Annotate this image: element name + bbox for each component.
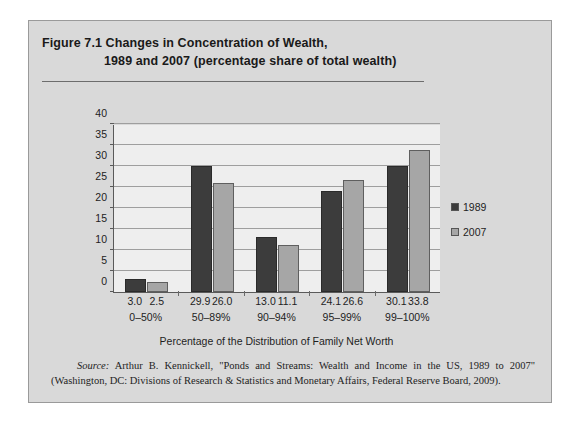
y-axis-tick-label: 35 (95, 128, 107, 140)
bar-value-label: 26.0 (212, 295, 232, 307)
y-axis-tick (110, 144, 114, 145)
bar-2007-0–50% (147, 282, 168, 293)
y-axis-tick-label: 0 (101, 275, 107, 287)
bar-value-label: 11.1 (278, 295, 298, 307)
x-axis-tick (178, 291, 179, 296)
bar-value-label: 33.8 (408, 295, 428, 307)
legend-swatch-icon (451, 228, 459, 236)
x-axis-category-label: 95–99% (323, 311, 362, 323)
bar-2007-99–100% (409, 150, 430, 292)
bar-1989-50–89% (191, 166, 212, 292)
source-note: Source: Arthur B. Kennickell, "Ponds and… (51, 358, 535, 388)
figure-title-line-1: Figure 7.1 Changes in Concentration of W… (42, 36, 328, 50)
legend-label: 1989 (463, 201, 486, 213)
y-axis-tick (110, 249, 114, 250)
bar-2007-90–94% (278, 245, 299, 292)
gridline (114, 123, 440, 124)
y-axis-tick (110, 291, 114, 292)
y-axis-tick-label: 15 (95, 212, 107, 224)
y-axis-tick-label: 20 (95, 191, 107, 203)
y-axis-tick (110, 270, 114, 271)
bar-1989-90–94% (256, 237, 277, 292)
bar-1989-0–50% (125, 279, 146, 292)
legend-item-2007[interactable]: 2007 (451, 226, 486, 238)
y-axis-tick (110, 165, 114, 166)
bar-value-label: 29.9 (190, 295, 210, 307)
x-axis-category-label: 99–100% (385, 311, 429, 323)
bar-value-label: 30.1 (386, 295, 406, 307)
figure-panel: Figure 7.1 Changes in Concentration of W… (28, 20, 552, 403)
chart-area: 0510152025303540 3.02.529.926.013.011.12… (29, 93, 553, 308)
x-axis-category-labels: 0–50%50–89%90–94%95–99%99–100% (113, 311, 440, 327)
title-divider (42, 81, 424, 82)
bar-1989-99–100% (387, 166, 408, 292)
source-text: Arthur B. Kennickell, "Ponds and Streams… (51, 360, 535, 386)
y-axis-tick (110, 228, 114, 229)
y-axis-tick (110, 123, 114, 124)
bar-1989-95–99% (321, 191, 342, 292)
plot-area: 0510152025303540 (113, 125, 440, 293)
figure-title: Figure 7.1 Changes in Concentration of W… (42, 35, 512, 71)
bar-value-label: 2.5 (149, 295, 164, 307)
legend-item-1989[interactable]: 1989 (451, 201, 486, 213)
y-axis-tick-label: 30 (95, 149, 107, 161)
x-axis-category-label: 0–50% (129, 311, 162, 323)
bar-value-labels: 3.02.529.926.013.011.124.126.630.133.8 (113, 295, 440, 310)
x-axis-tick (309, 291, 310, 296)
bar-value-label: 24.1 (321, 295, 341, 307)
y-axis-tick-label: 25 (95, 170, 107, 182)
figure-title-line-2: 1989 and 2007 (percentage share of total… (42, 53, 512, 71)
legend-label: 2007 (463, 226, 486, 238)
source-label: Source: (77, 360, 109, 371)
x-axis-category-label: 50–89% (192, 311, 231, 323)
bar-value-label: 3.0 (127, 295, 142, 307)
y-axis-tick (110, 207, 114, 208)
y-axis-tick-label: 10 (95, 233, 107, 245)
legend-swatch-icon (451, 203, 459, 211)
bar-value-label: 26.6 (343, 295, 363, 307)
x-axis-category-label: 90–94% (257, 311, 296, 323)
x-axis-title: Percentage of the Distribution of Family… (113, 335, 440, 347)
y-axis-tick-label: 5 (101, 254, 107, 266)
y-axis-tick (110, 186, 114, 187)
bar-2007-95–99% (343, 180, 364, 292)
y-axis-tick-label: 40 (95, 107, 107, 119)
x-axis-tick (375, 291, 376, 296)
bar-2007-50–89% (213, 183, 234, 292)
x-axis-tick (244, 291, 245, 296)
gridline (114, 144, 440, 145)
chart-legend: 19892007 (451, 201, 486, 251)
bar-value-label: 13.0 (255, 295, 275, 307)
